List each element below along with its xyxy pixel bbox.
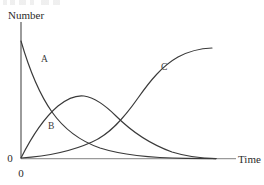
curve-label-b: B	[48, 121, 54, 131]
curve-label-c: C	[161, 62, 167, 72]
curve-a-path	[21, 41, 216, 159]
y-axis-title: Number	[8, 9, 44, 21]
x-axis-zero-label: 0	[18, 167, 24, 179]
curve-label-a: A	[41, 54, 48, 64]
cropped-text-artifact	[3, 0, 73, 5]
chart-figure: Number Time 0 0 A B C	[0, 0, 264, 185]
line-chart-canvas: Number Time 0 0 A B C	[0, 0, 264, 185]
y-axis-zero-label: 0	[7, 152, 13, 164]
x-axis-title: Time	[238, 153, 261, 165]
curve-c-path	[21, 48, 212, 158]
